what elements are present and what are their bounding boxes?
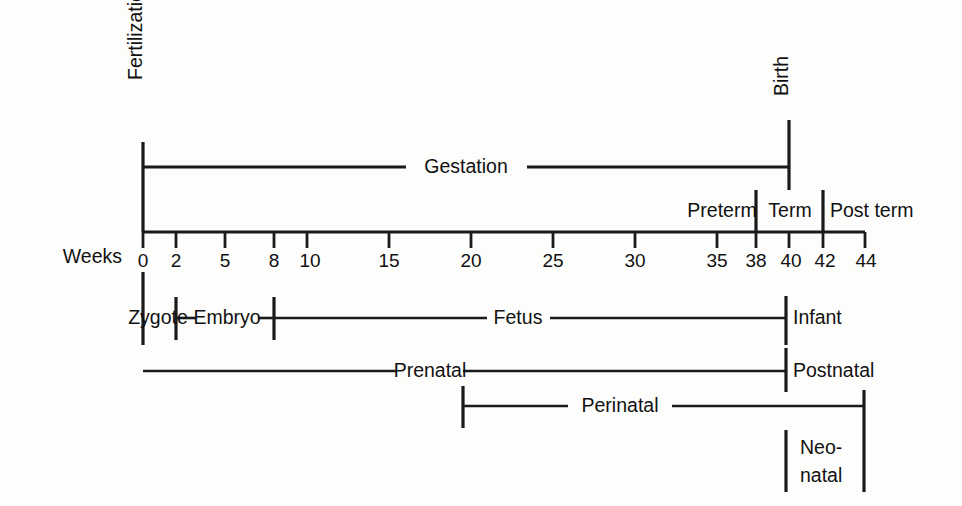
fertilization-marker: Fertilization bbox=[124, 0, 146, 232]
tick-label-10: 10 bbox=[299, 250, 320, 271]
tick-label-44: 44 bbox=[855, 250, 877, 271]
neonatal-label-line2: natal bbox=[800, 464, 842, 486]
week-axis: Weeks 0 2 5 8 10 15 20 25 bbox=[63, 232, 877, 271]
tick-label-2: 2 bbox=[171, 250, 182, 271]
gestation-span: Gestation bbox=[143, 155, 789, 177]
tick-label-8: 8 bbox=[269, 250, 280, 271]
post-term-label: Post term bbox=[830, 199, 913, 221]
preterm-label: Preterm bbox=[687, 199, 756, 221]
birth-marker: Birth bbox=[770, 56, 792, 190]
tick-label-20: 20 bbox=[460, 250, 481, 271]
tick-label-25: 25 bbox=[542, 250, 563, 271]
tick-label-30: 30 bbox=[624, 250, 645, 271]
perinatal-label: Perinatal bbox=[582, 394, 659, 416]
embryo-label: Embryo bbox=[193, 306, 260, 328]
term-status-row: Preterm Term Post term bbox=[687, 190, 913, 232]
tick-label-42: 42 bbox=[814, 250, 835, 271]
tick-label-0: 0 bbox=[138, 250, 149, 271]
axis-ticks: 0 2 5 8 10 15 20 25 30 35 bbox=[138, 232, 877, 271]
timeline-svg: Fertilization Birth Gestation Preterm Te… bbox=[0, 0, 962, 506]
term-label: Term bbox=[768, 199, 811, 221]
postnatal-label: Postnatal bbox=[793, 359, 874, 381]
natal-row: Prenatal Postnatal bbox=[143, 348, 874, 392]
birth-label: Birth bbox=[770, 56, 792, 96]
gestation-label: Gestation bbox=[424, 155, 507, 177]
infant-label: Infant bbox=[793, 306, 842, 328]
tick-label-40: 40 bbox=[780, 250, 801, 271]
tick-label-15: 15 bbox=[378, 250, 399, 271]
timeline-diagram: Fertilization Birth Gestation Preterm Te… bbox=[0, 0, 962, 506]
prenatal-label: Prenatal bbox=[394, 359, 467, 381]
tick-label-5: 5 bbox=[220, 250, 231, 271]
stage-row: Zygote Embryo Fetus Infant bbox=[128, 272, 842, 345]
neonatal-block: Neo- natal bbox=[786, 430, 842, 492]
neonatal-label-line1: Neo- bbox=[800, 436, 842, 458]
zygote-label: Zygote bbox=[128, 306, 188, 328]
axis-label-weeks: Weeks bbox=[63, 245, 122, 267]
fertilization-label: Fertilization bbox=[124, 0, 146, 80]
tick-label-35: 35 bbox=[706, 250, 727, 271]
fetus-label: Fetus bbox=[494, 306, 543, 328]
tick-label-38: 38 bbox=[745, 250, 766, 271]
